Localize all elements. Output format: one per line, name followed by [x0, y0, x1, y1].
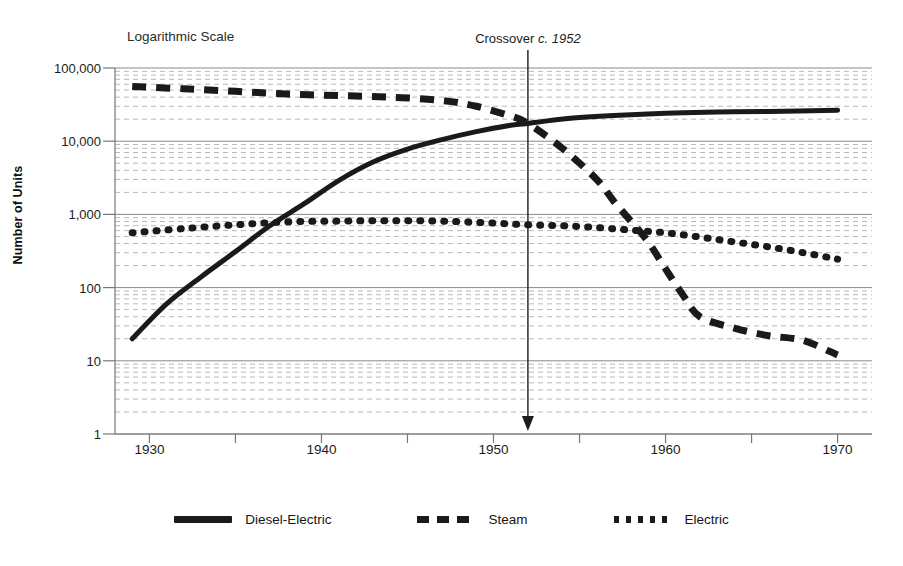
crossover-annotation-label: Crossover c. 1952 [475, 31, 581, 46]
x-tick-label: 1940 [306, 442, 336, 457]
legend-item[interactable]: Electric [614, 512, 729, 527]
series-line-dashed [132, 86, 837, 355]
y-tick-label: 10 [37, 353, 101, 368]
x-tick-label: 1970 [823, 442, 853, 457]
legend-swatch-solid [174, 516, 232, 523]
legend-item[interactable]: Steam [417, 512, 527, 527]
y-tick-label: 1,000 [37, 207, 101, 222]
major-gridlines [115, 68, 872, 434]
series-line-dotted [132, 221, 837, 259]
legend-swatch-dashed [417, 516, 475, 523]
x-tick-label: 1950 [478, 442, 508, 457]
series-layer [132, 86, 837, 355]
chart-container: Number of Units Logarithmic Scale Crosso… [0, 0, 903, 566]
legend-label: Diesel-Electric [245, 512, 331, 527]
y-axis-title: Number of Units [11, 145, 25, 285]
annotation-layer [522, 50, 534, 431]
x-tick-label: 1930 [134, 442, 164, 457]
legend-swatch-dotted [614, 516, 672, 523]
axis-lines [115, 68, 872, 434]
y-tick-label: 100 [37, 280, 101, 295]
crossover-arrowhead [522, 416, 534, 431]
crossover-prefix: Crossover [475, 31, 538, 46]
y-tick-label: 100,000 [37, 61, 101, 76]
axis-ticks [103, 68, 838, 443]
chart-legend: Diesel-ElectricSteamElectric [0, 512, 903, 527]
crossover-year: c. 1952 [538, 31, 581, 46]
y-tick-label: 10,000 [37, 134, 101, 149]
legend-item[interactable]: Diesel-Electric [174, 512, 331, 527]
legend-label: Steam [488, 512, 527, 527]
log-scale-note: Logarithmic Scale [127, 29, 234, 44]
plot-area [0, 0, 903, 566]
y-tick-label: 1 [37, 427, 101, 442]
x-tick-label: 1960 [651, 442, 681, 457]
legend-label: Electric [685, 512, 729, 527]
